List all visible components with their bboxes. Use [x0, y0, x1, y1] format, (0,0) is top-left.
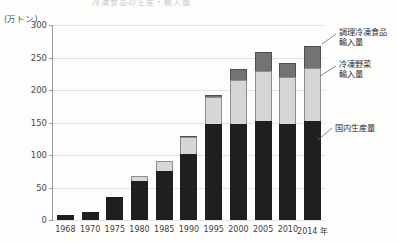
chart-container: 冷凍食品の生産・輸入量 (万トン) 300250200150100500 196…: [0, 0, 397, 243]
legend-leader-lines: [0, 0, 397, 243]
